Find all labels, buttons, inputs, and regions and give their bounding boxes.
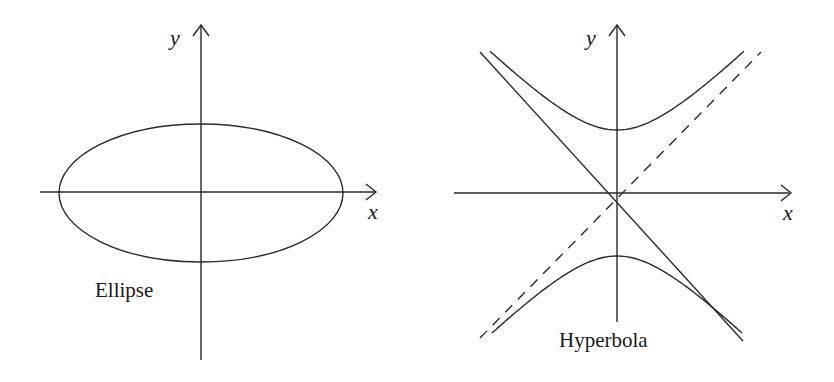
ellipse-y-label: y (168, 25, 180, 50)
ellipse-caption: Ellipse (95, 278, 153, 302)
conic-sections-diagram: y x Ellipse y x Hyperbola (0, 0, 834, 382)
hyperbola-x-label: x (782, 200, 793, 225)
hyperbola-figure: y x Hyperbola (454, 25, 793, 352)
hyperbola-y-label: y (584, 25, 596, 50)
ellipse-x-label: x (367, 199, 378, 224)
ellipse-figure: y x Ellipse (40, 25, 378, 360)
hyperbola-asymptote-dashed (480, 52, 761, 338)
hyperbola-caption: Hyperbola (559, 328, 648, 352)
